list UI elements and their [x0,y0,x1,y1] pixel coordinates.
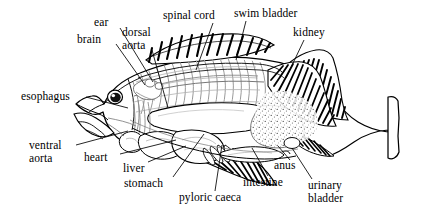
fish-eye [108,90,123,104]
label-heart: heart [84,151,107,164]
label-stomach: stomach [124,177,163,190]
urinary-bladder-organ [284,138,300,149]
fish-anatomy-figure: esophagus brain ear dorsal aorta spinal … [0,0,447,214]
label-liver: liver [123,162,145,175]
label-kidney: kidney [293,26,325,39]
fish-anatomy-drawing [0,0,447,214]
label-ear: ear [94,16,108,29]
label-esophagus: esophagus [21,90,70,103]
label-dorsal-aorta: dorsal aorta [122,26,151,51]
label-brain: brain [77,33,101,46]
label-urinary-bladder: urinary bladder [308,179,343,204]
label-ventral-aorta: ventral aorta [29,139,62,164]
label-anus: anus [274,159,295,172]
label-spinal-cord: spinal cord [163,9,215,22]
label-intestine: intestine [243,176,283,189]
label-swim-bladder: swim bladder [234,7,297,20]
label-pyloric-caeca: pyloric caeca [179,191,241,204]
